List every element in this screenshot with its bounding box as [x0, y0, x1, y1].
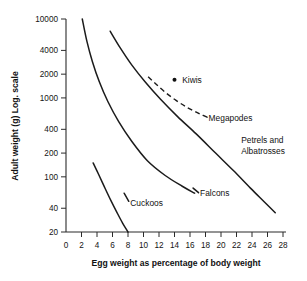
egg-weight-chart: 204010020040010002000400010000 024681012… [0, 0, 307, 281]
x-tick-label-10: 10 [139, 241, 149, 250]
y-axis-ticks: 204010020040010002000400010000 [35, 15, 66, 237]
x-axis-ticks: 0246810121416182022242628 [64, 232, 288, 250]
falcons-label: Falcons [200, 188, 229, 198]
x-tick-label-6: 6 [110, 241, 115, 250]
chart-container: 204010020040010002000400010000 024681012… [0, 0, 307, 281]
petrels-label-line1: Petrels and [241, 135, 284, 145]
y-tick-label-1000: 1000 [40, 94, 59, 103]
x-tick-label-14: 14 [170, 241, 180, 250]
x-axis-title: Egg weight as percentage of body weight [91, 258, 260, 268]
y-tick-label-400: 400 [44, 125, 58, 134]
y-axis-title: Adult weight (g) Log. scale [10, 71, 20, 181]
x-tick-label-22: 22 [232, 241, 242, 250]
leader-lines [124, 115, 207, 201]
y-tick-label-20: 20 [49, 228, 59, 237]
x-tick-label-0: 0 [64, 241, 69, 250]
x-tick-label-24: 24 [247, 241, 257, 250]
y-tick-label-40: 40 [49, 204, 59, 213]
leader-line-0 [124, 193, 129, 201]
x-tick-label-12: 12 [154, 241, 164, 250]
x-tick-label-2: 2 [79, 241, 84, 250]
leader-line-2 [203, 115, 207, 117]
cuckoos-label: Cuckoos [130, 198, 163, 208]
data-point-kiwis [173, 78, 177, 82]
series-annotations: CuckoosFalconsMegapodesPetrels andAlbatr… [130, 75, 285, 209]
axes [66, 19, 286, 232]
y-tick-label-200: 200 [44, 149, 58, 158]
megapodes-label: Megapodes [209, 113, 253, 123]
x-tick-label-20: 20 [216, 241, 226, 250]
curve-falcons [82, 19, 194, 193]
y-tick-label-4000: 4000 [40, 46, 59, 55]
x-tick-label-26: 26 [263, 241, 273, 250]
y-tick-label-100: 100 [44, 173, 58, 182]
x-tick-label-4: 4 [95, 241, 100, 250]
data-points [173, 78, 177, 82]
petrels-label-line2: Albatrosses [241, 146, 285, 156]
data-curves [82, 19, 275, 232]
y-tick-label-10000: 10000 [35, 15, 58, 24]
y-tick-label-2000: 2000 [40, 70, 59, 79]
x-tick-label-16: 16 [185, 241, 195, 250]
curve-cuckoos [93, 163, 128, 232]
x-tick-label-18: 18 [201, 241, 211, 250]
x-tick-label-8: 8 [126, 241, 131, 250]
kiwis-label: Kiwis [182, 75, 202, 85]
x-tick-label-28: 28 [278, 241, 288, 250]
